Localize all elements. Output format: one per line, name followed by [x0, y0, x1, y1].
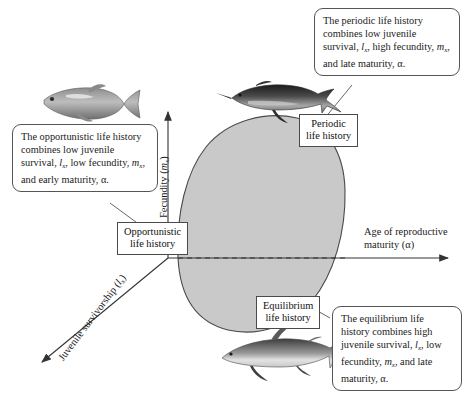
callout-periodic: The periodic life history combines low j…	[314, 8, 460, 76]
y-axis-label-suffix: )	[158, 156, 169, 159]
callout-periodic-seg2: , high fecundity,	[367, 41, 436, 52]
y-axis-label-var: mx	[158, 160, 169, 171]
callout-opportunistic: The opportunistic life history combines …	[12, 124, 158, 192]
x-axis-label-line2: maturity (α)	[364, 239, 464, 252]
callout-opportunistic-seg2: , low fecundity,	[65, 157, 132, 168]
label-opportunistic-line1: Opportunistic	[124, 226, 181, 238]
callout-equilibrium-var-mx: mx	[384, 356, 395, 367]
label-box-periodic: Periodic life history	[299, 114, 358, 147]
label-periodic-line1: Periodic	[306, 118, 351, 130]
x-axis-label-line1: Age of reproductive	[364, 226, 464, 239]
y-axis-label-prefix: Fecundity (	[158, 170, 169, 218]
label-box-opportunistic: Opportunistic life history	[117, 222, 188, 255]
callout-equilibrium: The equilibrium life history combines hi…	[332, 306, 462, 391]
y-axis-label: Fecundity (mx)	[158, 156, 173, 218]
label-opportunistic-line2: life history	[124, 238, 181, 250]
callout-opportunistic-var-mx: mx	[132, 157, 143, 168]
callout-periodic-var-mx: mx	[437, 41, 448, 52]
x-axis-label: Age of reproductive maturity (α)	[364, 226, 464, 251]
label-equilibrium-line1: Equilibrium	[263, 300, 313, 312]
label-box-equilibrium: Equilibrium life history	[256, 296, 320, 329]
life-history-triangle-diagram: The periodic life history combines low j…	[0, 0, 466, 395]
label-equilibrium-line2: life history	[263, 312, 313, 324]
killifish-photo	[44, 84, 140, 121]
label-periodic-line2: life history	[306, 130, 351, 142]
